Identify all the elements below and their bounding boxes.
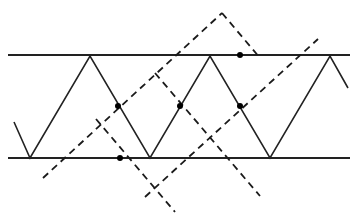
intersection-dot-4	[237, 103, 243, 109]
figure-container	[0, 0, 357, 213]
geometry-diagram-svg	[0, 0, 357, 213]
intersection-dot-1	[115, 103, 121, 109]
intersection-dot-3	[177, 103, 183, 109]
intersection-dot-2	[117, 155, 123, 161]
intersection-dot-5	[237, 52, 243, 58]
